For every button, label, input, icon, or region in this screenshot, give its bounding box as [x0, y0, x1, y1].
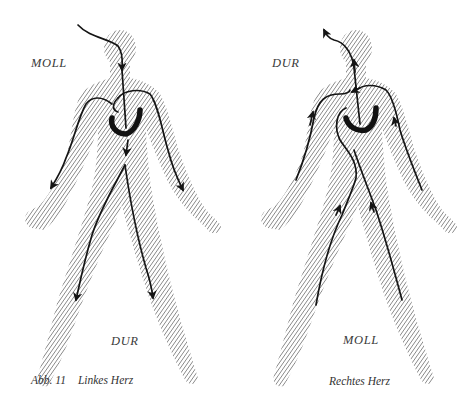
left-bottom-label: DUR — [111, 335, 139, 348]
right-bottom-label: MOLL — [343, 334, 379, 347]
right-caption-title: Rechtes Herz — [329, 375, 390, 387]
left-figure — [25, 25, 221, 386]
left-caption: Abb. 11Linkes Herz — [31, 375, 133, 387]
right-top-label: DUR — [272, 57, 300, 70]
right-caption: Rechtes Herz — [329, 376, 390, 388]
figure-number: Abb. 11 — [31, 374, 66, 386]
figure-illustration — [0, 0, 472, 408]
arrow-neck — [354, 60, 355, 72]
left-caption-title: Linkes Herz — [78, 374, 133, 386]
left-top-label: MOLL — [31, 57, 67, 70]
